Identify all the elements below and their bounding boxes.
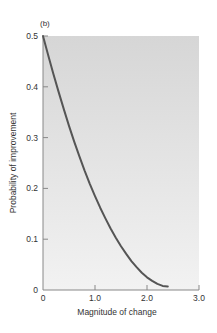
chart: 00.10.20.30.40.501.02.03.0 (b) Magnitude… [0,0,217,333]
y-tick-label: 0.4 [26,82,38,92]
x-tick-label: 3.0 [193,293,205,303]
y-tick-label: 0.1 [26,234,38,244]
y-tick-label: 0.5 [26,31,38,41]
x-tick-label: 1.0 [89,293,101,303]
plot-background [43,36,199,290]
y-tick-label: 0.2 [26,183,38,193]
x-tick-label: 2.0 [141,293,153,303]
y-tick-label: 0.3 [26,133,38,143]
panel-label: (b) [40,19,50,28]
y-tick-label: 0 [33,285,38,295]
y-axis-title: Probability of improvement [8,112,18,213]
x-tick-label: 0 [41,293,46,303]
x-axis-title: Magnitude of change [77,307,157,317]
